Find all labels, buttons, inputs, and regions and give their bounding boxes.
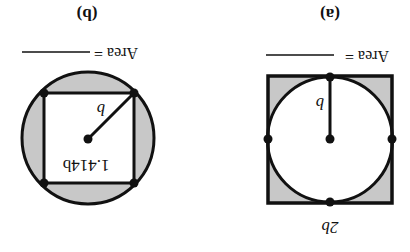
radius-label-a: b bbox=[316, 94, 325, 113]
figure-b: b 1.414b Area = (b) bbox=[22, 5, 154, 204]
diagram-stage: b 2b Area = (a) b 1.414b Area = (b) bbox=[0, 0, 410, 252]
area-label-a: Area = bbox=[345, 48, 389, 65]
vertex-dot-b-2 bbox=[130, 89, 139, 98]
side-label-b: 1.414b bbox=[63, 156, 110, 175]
tangent-dot-top-a bbox=[326, 73, 335, 82]
vertex-dot-b-1 bbox=[40, 89, 49, 98]
tangent-dot-bottom-a bbox=[326, 198, 335, 207]
caption-a: (a) bbox=[320, 5, 340, 24]
caption-b: (b) bbox=[77, 5, 98, 24]
figure-a: b 2b Area = (a) bbox=[264, 5, 397, 237]
center-dot-a bbox=[326, 135, 335, 144]
vertex-dot-b-3 bbox=[40, 179, 49, 188]
center-dot-b bbox=[84, 135, 93, 144]
area-label-b: Area = bbox=[94, 45, 138, 62]
geometry-diagram: b 2b Area = (a) b 1.414b Area = (b) bbox=[0, 0, 410, 252]
tangent-dot-right-a bbox=[388, 135, 397, 144]
vertex-dot-b-4 bbox=[130, 179, 139, 188]
radius-label-b: b bbox=[97, 100, 106, 119]
side-label-a: 2b bbox=[322, 218, 339, 237]
tangent-dot-left-a bbox=[264, 135, 273, 144]
